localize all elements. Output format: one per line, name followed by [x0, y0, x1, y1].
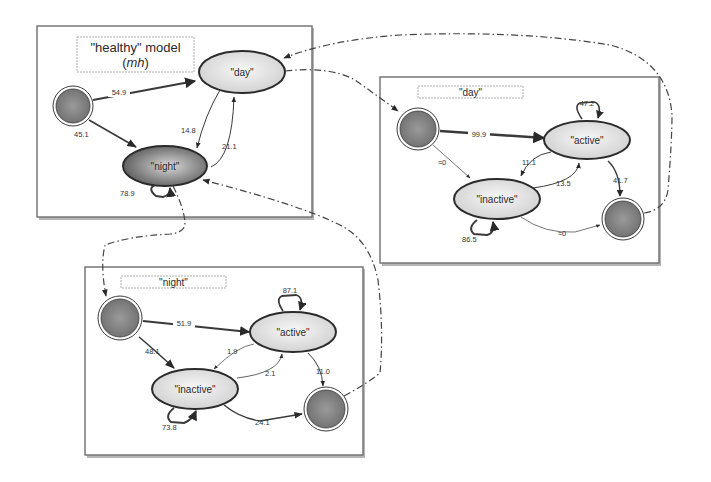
state-day: "day" — [199, 51, 285, 93]
state-day-inactive: "inactive" — [454, 179, 540, 219]
panel-night-model: "night" 51.9 48.1 1.9 2.1 11.0 87.1 73.8… — [85, 267, 365, 458]
edge-label-day-active-to-inactive: 11.1 — [522, 158, 536, 167]
night-model-title: "night" — [159, 277, 188, 288]
hierarchical-markov-diagram: "healthy" model (mh) 54.9 45.1 14.8 21.1… — [0, 0, 711, 482]
state-day-active: "active" — [544, 121, 630, 159]
state-night-inactive: "inactive" — [152, 369, 238, 409]
edge-label-day-to-night: 14.8 — [181, 126, 196, 135]
edge-label-day-inactive-self: 86.5 — [462, 235, 477, 244]
edge-label-night-active-to-inactive: 1.9 — [227, 347, 237, 356]
edge-label-night-to-day: 21.1 — [222, 142, 237, 151]
edge-label-day-inactive-to-end: ≈0 — [558, 229, 566, 238]
svg-text:"day": "day" — [230, 67, 254, 78]
svg-text:"active": "active" — [276, 327, 310, 338]
svg-text:"inactive": "inactive" — [476, 194, 517, 205]
edge-label-night-self: 78.9 — [120, 189, 135, 198]
edge-label-start-to-day: 54.9 — [112, 88, 127, 97]
day-model-title: "day" — [459, 87, 483, 98]
panel-day-model: "day" 99.9 ≈0 11.1 13.5 41.7 47.2 86.5 ≈… — [380, 77, 661, 266]
healthy-model-title: "healthy" model — [90, 40, 180, 55]
edge-label-start-to-night: 45.1 — [74, 130, 89, 139]
edge-label-night-inactive-to-end: 24.1 — [255, 418, 270, 427]
night-start-node — [98, 296, 142, 340]
edge-label-night-start-to-inactive: 48.1 — [145, 347, 160, 356]
svg-text:"night": "night" — [151, 161, 180, 172]
night-end-node — [304, 387, 348, 431]
edge-label-day-active-self: 47.2 — [580, 99, 595, 108]
edge-label-night-active-self: 87.1 — [283, 286, 298, 295]
edge-label-night-active-to-end: 11.0 — [316, 367, 330, 376]
day-start-node — [397, 108, 439, 150]
healthy-model-subtitle: (mh) — [122, 55, 149, 70]
state-night-active: "active" — [250, 312, 336, 352]
svg-text:"active": "active" — [570, 135, 604, 146]
edge-label-day-active-to-end: 41.7 — [613, 176, 628, 185]
edge-label-day-start-to-active: 99.9 — [472, 130, 487, 139]
edge-label-day-start-to-inactive: ≈0 — [438, 158, 446, 167]
edge-label-night-inactive-to-active: 2.1 — [265, 369, 275, 378]
edge-label-night-start-to-active: 51.9 — [177, 319, 192, 328]
svg-text:"inactive": "inactive" — [174, 384, 215, 395]
state-night: "night" — [123, 146, 207, 186]
healthy-start-node — [53, 86, 93, 126]
day-end-node — [602, 198, 644, 240]
edge-label-day-inactive-to-active: 13.5 — [556, 179, 571, 188]
edge-label-night-inactive-self: 73.8 — [162, 423, 177, 432]
